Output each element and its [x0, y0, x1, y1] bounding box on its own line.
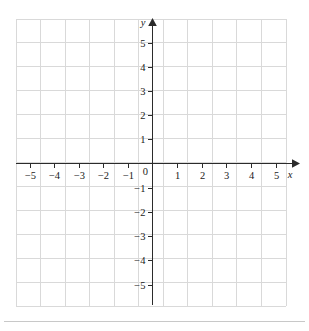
coordinate-grid-svg: −5−4−3−2−112345 54321−1−2−3−4−5 0 x y — [0, 0, 309, 331]
x-tick-label: 2 — [200, 170, 205, 181]
y-tick-label: 2 — [140, 110, 145, 121]
y-tick-label: 1 — [140, 134, 145, 145]
figure-background — [0, 0, 309, 331]
x-tick-label: −2 — [98, 170, 109, 181]
x-tick-label: 1 — [175, 170, 180, 181]
y-tick-label: −2 — [134, 207, 145, 218]
x-tick-label: −4 — [49, 170, 61, 181]
coordinate-plane-figure: −5−4−3−2−112345 54321−1−2−3−4−5 0 x y — [0, 0, 309, 331]
x-tick-label: −1 — [123, 170, 134, 181]
x-tick-label: 5 — [274, 170, 279, 181]
y-tick-label: 4 — [140, 62, 146, 73]
x-tick-label: 4 — [249, 170, 255, 181]
origin-label: 0 — [143, 166, 148, 177]
y-tick-label: −4 — [134, 255, 146, 266]
y-tick-label: 5 — [140, 38, 145, 49]
x-tick-label: 3 — [224, 170, 229, 181]
y-axis-label: y — [140, 17, 146, 28]
x-axis-label: x — [287, 169, 293, 180]
x-tick-label: −5 — [25, 170, 36, 181]
x-tick-label: −3 — [74, 170, 85, 181]
y-tick-label: −3 — [134, 231, 145, 242]
y-tick-label: 3 — [140, 86, 145, 97]
y-tick-label: −5 — [134, 280, 145, 291]
y-tick-label: −1 — [134, 183, 145, 194]
